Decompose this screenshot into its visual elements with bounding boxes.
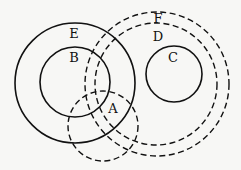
label-e: E [69, 26, 79, 41]
circle-e-outline [15, 23, 135, 143]
circle-c: C [146, 46, 202, 102]
label-c: C [168, 50, 178, 65]
circle-e: E [15, 23, 135, 143]
circle-d: D [95, 23, 217, 145]
label-b: B [69, 50, 79, 65]
label-f: F [153, 11, 162, 26]
circle-a-outline [68, 91, 138, 161]
circle-a: A [68, 91, 138, 161]
label-a: A [107, 101, 118, 116]
label-d: D [153, 29, 163, 44]
circle-b: B [40, 47, 110, 117]
set-diagram: E B C A D F [0, 0, 241, 170]
